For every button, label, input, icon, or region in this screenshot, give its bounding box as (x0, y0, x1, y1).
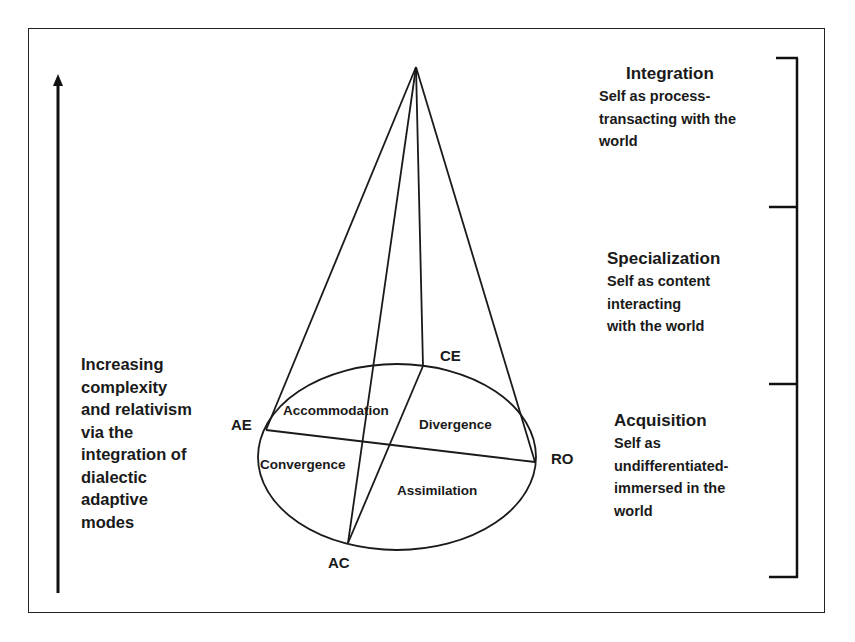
axis-description: Increasing complexity and relativism via… (81, 353, 192, 533)
stage-line: undifferentiated- (614, 455, 728, 478)
stage-line: world (614, 500, 728, 523)
stage-line: with the world (607, 315, 720, 338)
mode-label-divergence: Divergence (419, 417, 492, 432)
stage-line: Self as process- (599, 85, 736, 108)
axis-line: Increasing (81, 353, 192, 376)
stage-integration: Integration Self as process- transacting… (599, 63, 736, 153)
edge-apex-ce (416, 67, 423, 366)
mode-label-accommodation: Accommodation (283, 403, 389, 418)
stage-line: Self as content (607, 270, 720, 293)
edge-apex-ro (416, 67, 535, 462)
stage-bracket (769, 58, 798, 578)
axis-line: and relativism (81, 398, 192, 421)
stage-line: world (599, 130, 736, 153)
axis-line: complexity (81, 376, 192, 399)
stage-line: transacting with the (599, 108, 736, 131)
axis-line: integration of (81, 443, 192, 466)
stage-line: interacting (607, 293, 720, 316)
pole-label-ac: AC (328, 554, 350, 571)
axis-line: via the (81, 421, 192, 444)
mode-label-convergence: Convergence (260, 457, 346, 472)
stage-specialization: Specialization Self as content interacti… (607, 248, 720, 338)
pole-label-ce: CE (440, 347, 461, 364)
stage-description: Self as process- transacting with the wo… (599, 85, 736, 153)
axis-line: adaptive (81, 488, 192, 511)
stage-title: Acquisition (614, 410, 728, 432)
stage-line: Self as (614, 432, 728, 455)
axis-line: modes (81, 511, 192, 534)
stage-acquisition: Acquisition Self as undifferentiated- im… (614, 410, 728, 522)
stage-line: immersed in the (614, 477, 728, 500)
mode-label-assimilation: Assimilation (397, 483, 477, 498)
edge-apex-ae (266, 67, 416, 430)
dialectic-axes (266, 366, 535, 543)
pole-label-ae: AE (231, 416, 252, 433)
stage-description: Self as content interacting with the wor… (607, 270, 720, 338)
complexity-arrow-icon (53, 74, 63, 593)
edge-apex-ac (348, 67, 416, 543)
stage-description: Self as undifferentiated- immersed in th… (614, 432, 728, 522)
pole-label-ro: RO (551, 450, 574, 467)
axis-ce-ac (348, 366, 423, 543)
axis-line: dialectic (81, 466, 192, 489)
stage-title: Integration (626, 63, 736, 85)
stage-title: Specialization (607, 248, 720, 270)
